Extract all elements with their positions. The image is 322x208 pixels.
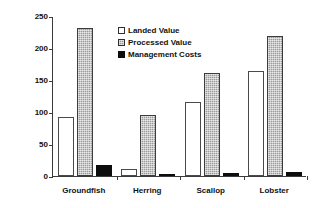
legend-item: Management Costs <box>118 50 201 59</box>
bar <box>204 73 220 176</box>
bar-group <box>244 17 308 176</box>
x-axis-category-label: Groundfish <box>62 186 105 195</box>
bar <box>121 169 137 176</box>
bar <box>267 36 283 176</box>
y-axis-tick-label: 50 <box>22 141 48 149</box>
legend-label: Management Costs <box>128 50 201 59</box>
bar <box>58 117 74 176</box>
legend-swatch-icon <box>118 39 125 46</box>
legend-label: Landed Value <box>128 26 180 35</box>
y-axis-tick-label: 250 <box>22 13 48 21</box>
bar <box>140 115 156 176</box>
chart-legend: Landed ValueProcessed ValueManagement Co… <box>118 26 201 59</box>
x-axis-category-label: Lobster <box>260 186 289 195</box>
x-axis-tick-mark <box>307 176 308 180</box>
legend-swatch-icon <box>118 51 125 58</box>
y-axis-tick-label: 200 <box>22 45 48 53</box>
bar <box>248 71 264 176</box>
bar <box>96 165 112 176</box>
bar <box>223 173 239 176</box>
bar <box>185 102 201 176</box>
x-axis-tick-mark <box>244 176 245 180</box>
y-axis-tick-label: 150 <box>22 77 48 85</box>
bar-group <box>53 17 117 176</box>
legend-label: Processed Value <box>128 38 192 47</box>
x-axis-tick-mark <box>117 176 118 180</box>
y-axis-tick-label: 0 <box>22 173 48 181</box>
legend-swatch-icon <box>118 27 125 34</box>
x-axis-category-label: Herring <box>133 186 161 195</box>
bar <box>159 174 175 176</box>
legend-item: Landed Value <box>118 26 201 35</box>
bar <box>77 28 93 176</box>
legend-item: Processed Value <box>118 38 201 47</box>
bar-chart-figure: 106 $Can 250200150100500 GroundfishHerri… <box>0 0 322 208</box>
y-axis-tick-mark <box>49 177 53 178</box>
x-axis-category-label: Scallop <box>197 186 225 195</box>
y-axis-tick-label: 100 <box>22 109 48 117</box>
x-axis-tick-mark <box>180 176 181 180</box>
bar <box>286 172 302 176</box>
y-axis-tick-labels: 250200150100500 <box>20 0 48 208</box>
